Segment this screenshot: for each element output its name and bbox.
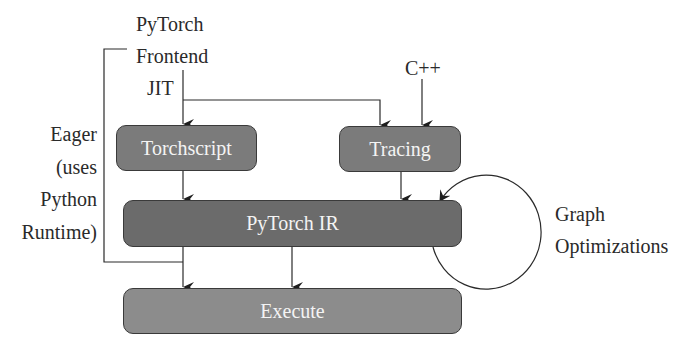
frontend-label: Frontend <box>136 46 208 66</box>
jit-to-tracing-arrow <box>183 100 380 125</box>
execute-box: Execute <box>123 288 462 334</box>
cpp-label: C++ <box>405 58 441 78</box>
pytorch-ir-box-label: PyTorch IR <box>246 212 338 235</box>
torchscript-box: Torchscript <box>116 125 257 171</box>
eager-line-2: (uses <box>21 151 97 184</box>
graph-optimizations-label-line-2: Optimizations <box>555 236 668 256</box>
eager-line-3: Python <box>21 183 97 216</box>
eager-line-4: Runtime) <box>21 216 97 249</box>
tracing-box: Tracing <box>339 126 461 172</box>
execute-box-label: Execute <box>260 300 324 323</box>
pytorch-ir-box: PyTorch IR <box>123 200 462 247</box>
torchscript-box-label: Torchscript <box>141 137 232 160</box>
graph-optimizations-label-line-1: Graph <box>555 204 605 224</box>
pytorch-label: PyTorch <box>136 14 203 34</box>
tracing-box-label: Tracing <box>369 138 430 161</box>
jit-label: JIT <box>147 78 174 98</box>
eager-line-1: Eager <box>21 118 97 151</box>
eager-label: Eager (uses Python Runtime) <box>21 118 97 248</box>
